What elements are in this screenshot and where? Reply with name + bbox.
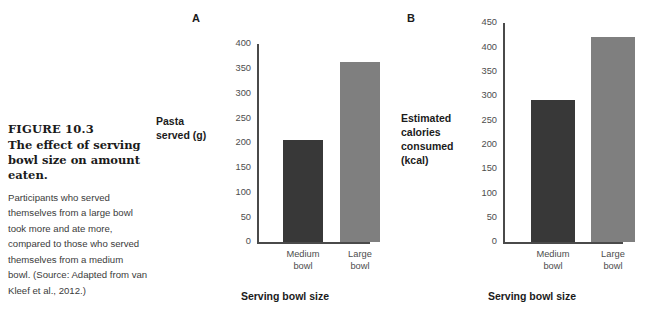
x-axis-label-b: Serving bowl size xyxy=(447,290,617,302)
figure-description: Participants who served themselves from … xyxy=(8,190,148,299)
figure-container: FIGURE 10.3 The effect of serving bowl s… xyxy=(0,0,649,314)
panel-letter-b: B xyxy=(407,12,415,24)
panel-letter-a: A xyxy=(192,12,200,24)
y-axis-tick: 350 xyxy=(217,64,251,73)
chart-panel-a: A Pasta served (g) 050100150200250300350… xyxy=(150,0,395,314)
y-axis-tick: 100 xyxy=(217,188,251,197)
x-axis-category-label: Largebowl xyxy=(577,249,649,272)
plot-area-a: 050100150200250300350400MediumbowlLargeb… xyxy=(257,44,370,242)
figure-number: FIGURE 10.3 xyxy=(8,122,148,137)
y-axis-tick: 300 xyxy=(217,89,251,98)
category-label-line2: bowl xyxy=(577,261,649,273)
y-axis-tick: 200 xyxy=(217,138,251,147)
y-axis-tick: 250 xyxy=(463,116,497,125)
figure-caption: FIGURE 10.3 The effect of serving bowl s… xyxy=(8,122,148,298)
y-axis-tick: 250 xyxy=(217,114,251,123)
bar xyxy=(340,62,380,242)
y-axis-tick: 50 xyxy=(463,213,497,222)
x-axis-line xyxy=(503,242,623,244)
y-axis-tick: 200 xyxy=(463,140,497,149)
y-axis-tick: 0 xyxy=(463,237,497,246)
y-axis-tick: 150 xyxy=(217,163,251,172)
y-axis-tick: 150 xyxy=(463,164,497,173)
x-axis-category-label: Largebowl xyxy=(326,249,394,272)
y-axis-label-b-line2: calories xyxy=(401,126,481,140)
y-axis-tick: 400 xyxy=(463,43,497,52)
y-axis-tick: 400 xyxy=(217,39,251,48)
y-axis-tick: 0 xyxy=(217,237,251,246)
y-axis-tick: 350 xyxy=(463,67,497,76)
y-axis-line xyxy=(503,23,505,243)
x-axis-line xyxy=(257,242,370,244)
category-label-line1: Large xyxy=(577,249,649,261)
y-axis-tick: 50 xyxy=(217,213,251,222)
chart-panel-b: B Estimated calories consumed (kcal) 050… xyxy=(395,0,649,314)
y-axis-tick: 100 xyxy=(463,189,497,198)
bar xyxy=(283,140,323,242)
bar xyxy=(591,37,635,242)
category-label-line2: bowl xyxy=(326,261,394,273)
x-axis-label-a: Serving bowl size xyxy=(200,290,370,302)
bar xyxy=(531,100,575,242)
plot-area-b: 050100150200250300350400450MediumbowlLar… xyxy=(503,23,623,242)
y-axis-line xyxy=(257,44,259,243)
y-axis-tick: 300 xyxy=(463,91,497,100)
y-axis-tick: 450 xyxy=(463,18,497,27)
category-label-line1: Large xyxy=(326,249,394,261)
figure-title: The effect of serving bowl size on amoun… xyxy=(8,138,148,183)
